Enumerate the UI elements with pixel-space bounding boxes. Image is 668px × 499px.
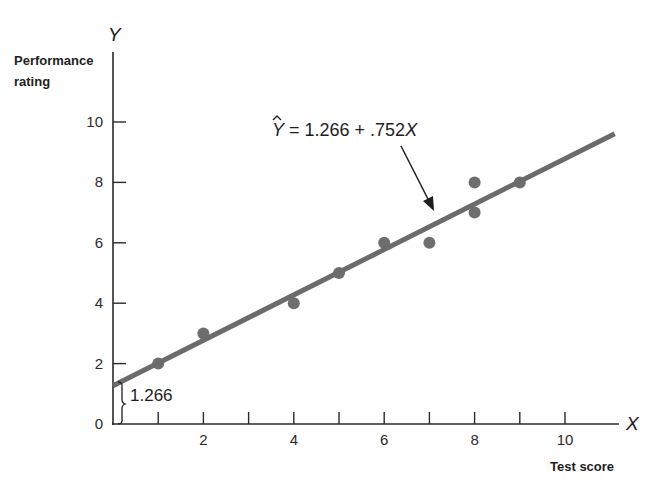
y-axis-title-line1: Performance (14, 53, 93, 68)
y-tick-label: 10 (86, 113, 103, 130)
intercept-brace-icon (118, 382, 125, 424)
y-tick-label: 8 (95, 173, 103, 190)
y-tick-label: 0 (95, 415, 103, 432)
equation-arrow (401, 146, 434, 211)
y-tick-labels: 0246810 (86, 113, 103, 432)
x-tick-label: 8 (470, 431, 478, 448)
intercept-label: 1.266 (130, 386, 173, 405)
y-tick-label: 6 (95, 234, 103, 251)
x-axis-symbol: X (625, 413, 640, 434)
equation-body: = 1.266 + .752 (284, 120, 405, 140)
svg-text:Y = 1.266 + .752X: Y = 1.266 + .752X (272, 120, 418, 140)
axes (112, 52, 619, 425)
regression-equation: Y = 1.266 + .752X (272, 116, 418, 140)
y-ticks (113, 122, 126, 364)
x-ticks (158, 412, 565, 424)
arrowhead-icon (423, 196, 434, 211)
x-tick-label: 4 (290, 431, 298, 448)
y-axis-symbol: Y (108, 24, 122, 45)
x-tick-labels: 246810 (199, 431, 573, 448)
data-point (423, 237, 435, 249)
y-tick-label: 2 (95, 355, 103, 372)
y-tick-label: 4 (95, 294, 103, 311)
equation-x: X (404, 120, 418, 140)
data-point (469, 176, 481, 188)
regression-line (113, 134, 615, 386)
regression-chart: Performance rating Y 0246810 246810 X Te… (0, 0, 668, 499)
x-axis-title: Test score (550, 459, 614, 474)
x-tick-label: 6 (380, 431, 388, 448)
x-tick-label: 10 (557, 431, 574, 448)
x-tick-label: 2 (199, 431, 207, 448)
y-axis-title-line2: rating (14, 74, 50, 89)
